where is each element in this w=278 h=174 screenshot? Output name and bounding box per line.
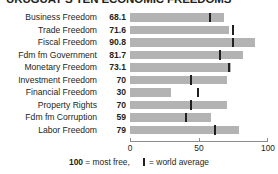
- row-category-label: Fiscal Freedom: [0, 37, 97, 47]
- chart-row: Fdm fm Government81.7: [0, 50, 278, 63]
- row-category-label: Monetary Freedom: [0, 62, 97, 72]
- value-bar: [130, 113, 211, 122]
- bar-track: [130, 76, 268, 85]
- chart-plot-area: Business Freedom68.1Trade Freedom71.6Fis…: [0, 12, 278, 140]
- row-category-label: Labor Freedom: [0, 125, 97, 135]
- bar-track: [130, 88, 268, 97]
- row-value-label: 59: [100, 112, 126, 122]
- axis-tick-label: 50: [194, 143, 203, 153]
- row-value-label: 71.6: [100, 25, 126, 35]
- row-value-label: 73.1: [100, 62, 126, 72]
- row-category-label: Investment Freedom: [0, 75, 97, 85]
- world-average-tick: [185, 113, 187, 123]
- legend-average-text: = world average: [147, 157, 209, 167]
- world-average-tick: [232, 25, 234, 35]
- axis-tick-label: 100: [261, 143, 275, 153]
- chart-row: Property Rights70: [0, 100, 278, 113]
- world-average-tick: [228, 63, 230, 73]
- world-average-tick: [209, 13, 211, 23]
- value-bar: [130, 51, 243, 60]
- chart-legend: 100 = most free, = world average: [0, 157, 278, 168]
- row-value-label: 30: [100, 87, 126, 97]
- value-bar: [130, 63, 231, 72]
- world-average-tick: [190, 100, 192, 110]
- axis-tick-mark: [267, 138, 268, 142]
- bar-track: [130, 101, 268, 110]
- value-bar: [130, 76, 227, 85]
- bar-track: [130, 38, 268, 47]
- value-bar: [130, 126, 239, 135]
- axis-tick-mark: [130, 138, 131, 142]
- row-category-label: Fdm fm Corruption: [0, 112, 97, 122]
- row-value-label: 81.7: [100, 50, 126, 60]
- row-category-label: Trade Freedom: [0, 25, 97, 35]
- chart-row: Labor Freedom79: [0, 125, 278, 138]
- x-axis: 050100: [130, 138, 268, 143]
- chart-row: Financial Freedom30: [0, 87, 278, 100]
- value-bar: [130, 88, 171, 97]
- legend-max-text: = most free,: [83, 157, 130, 167]
- row-category-label: Business Freedom: [0, 12, 97, 22]
- row-value-label: 70: [100, 100, 126, 110]
- value-bar: [130, 101, 227, 110]
- value-bar: [130, 38, 255, 47]
- legend-max-value: 100: [69, 157, 83, 167]
- row-value-label: 70: [100, 75, 126, 85]
- chart-row: Business Freedom68.1: [0, 12, 278, 25]
- chart-row: Fdm fm Corruption59: [0, 112, 278, 125]
- value-bar: [130, 26, 229, 35]
- bar-track: [130, 26, 268, 35]
- bar-track: [130, 113, 268, 122]
- page-title: URUGUAY'S TEN ECONOMIC FREEDOMS: [6, 0, 231, 5]
- world-average-tick: [214, 125, 216, 135]
- chart-row: Monetary Freedom73.1: [0, 62, 278, 75]
- world-average-tick: [219, 50, 221, 60]
- row-value-label: 79: [100, 125, 126, 135]
- row-category-label: Financial Freedom: [0, 87, 97, 97]
- row-category-label: Property Rights: [0, 100, 97, 110]
- bar-track: [130, 13, 268, 22]
- row-value-label: 90.8: [100, 37, 126, 47]
- axis-tick-mark: [199, 138, 200, 142]
- row-category-label: Fdm fm Government: [0, 50, 97, 60]
- bar-track: [130, 63, 268, 72]
- world-average-tick: [197, 88, 199, 98]
- row-value-label: 68.1: [100, 12, 126, 22]
- world-average-tick: [190, 75, 192, 85]
- bar-track: [130, 126, 268, 135]
- world-average-tick-icon: [143, 158, 145, 166]
- chart-row: Trade Freedom71.6: [0, 25, 278, 38]
- world-average-tick: [232, 38, 234, 48]
- chart-row: Fiscal Freedom90.8: [0, 37, 278, 50]
- chart-row: Investment Freedom70: [0, 75, 278, 88]
- bar-track: [130, 51, 268, 60]
- axis-tick-label: 0: [128, 143, 133, 153]
